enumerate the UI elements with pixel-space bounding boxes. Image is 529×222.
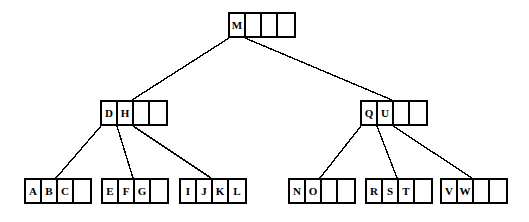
btree-cell-empty[interactable] xyxy=(151,180,167,202)
btree-edge xyxy=(56,126,101,178)
btree-cell-empty[interactable] xyxy=(394,102,410,124)
btree-cell-key[interactable]: K xyxy=(213,180,229,202)
btree-node[interactable]: M xyxy=(228,12,296,38)
btree-edge xyxy=(393,126,472,178)
btree-cell-empty[interactable] xyxy=(150,102,166,124)
btree-edge xyxy=(245,38,392,100)
btree-node[interactable]: VW xyxy=(440,178,508,204)
btree-cell-key[interactable]: Q xyxy=(362,102,378,124)
btree-cell-empty[interactable] xyxy=(278,14,294,36)
btree-cell-key[interactable]: H xyxy=(118,102,134,124)
btree-cell-key[interactable]: O xyxy=(306,180,322,202)
btree-cell-key[interactable]: J xyxy=(197,180,213,202)
btree-cell-empty[interactable] xyxy=(474,180,490,202)
btree-cell-empty[interactable] xyxy=(262,14,278,36)
btree-node[interactable]: NO xyxy=(288,178,356,204)
btree-cell-key[interactable]: I xyxy=(181,180,197,202)
btree-node[interactable]: QU xyxy=(360,100,428,126)
btree-node[interactable]: ABC xyxy=(24,178,92,204)
btree-cell-empty[interactable] xyxy=(74,180,90,202)
btree-cell-key[interactable]: S xyxy=(383,180,399,202)
btree-cell-key[interactable]: V xyxy=(442,180,458,202)
btree-cell-key[interactable]: W xyxy=(458,180,474,202)
btree-edge xyxy=(133,126,211,178)
btree-cell-key[interactable]: G xyxy=(135,180,151,202)
btree-cell-key[interactable]: M xyxy=(230,14,246,36)
btree-diagram-canvas: MDHQUABCEFGIJKLNORSTVW xyxy=(0,0,529,222)
btree-node[interactable]: IJKL xyxy=(179,178,247,204)
btree-cell-empty[interactable] xyxy=(410,102,426,124)
btree-cell-empty[interactable] xyxy=(338,180,354,202)
btree-node[interactable]: EFG xyxy=(101,178,169,204)
btree-cell-key[interactable]: R xyxy=(367,180,383,202)
btree-cell-key[interactable]: L xyxy=(229,180,245,202)
btree-cell-key[interactable]: E xyxy=(103,180,119,202)
btree-cell-key[interactable]: F xyxy=(119,180,135,202)
btree-cell-key[interactable]: N xyxy=(290,180,306,202)
btree-cell-empty[interactable] xyxy=(415,180,431,202)
btree-edge xyxy=(117,126,133,178)
btree-node[interactable]: RST xyxy=(365,178,433,204)
btree-edge xyxy=(320,126,361,178)
btree-cell-key[interactable]: D xyxy=(102,102,118,124)
btree-cell-key[interactable]: U xyxy=(378,102,394,124)
btree-cell-empty[interactable] xyxy=(322,180,338,202)
btree-cell-key[interactable]: A xyxy=(26,180,42,202)
btree-cell-empty[interactable] xyxy=(490,180,506,202)
btree-cell-empty[interactable] xyxy=(134,102,150,124)
btree-node[interactable]: DH xyxy=(100,100,168,126)
btree-cell-key[interactable]: T xyxy=(399,180,415,202)
btree-cell-key[interactable]: B xyxy=(42,180,58,202)
btree-cell-key[interactable]: C xyxy=(58,180,74,202)
btree-cell-empty[interactable] xyxy=(246,14,262,36)
btree-edge xyxy=(132,38,229,100)
btree-edge xyxy=(377,126,397,178)
